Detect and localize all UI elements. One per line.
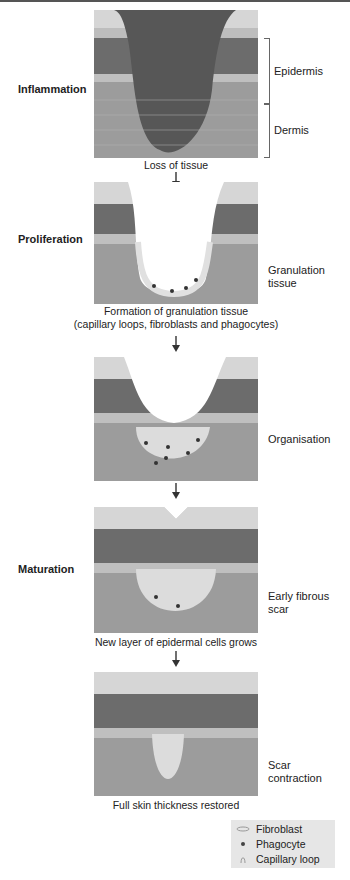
caption-loss-of-tissue: Loss of tissue (94, 159, 258, 172)
panel-inflammation (94, 10, 258, 158)
legend: Fibroblast Phagocyte Capillary loop (231, 820, 335, 868)
side-label-organisation: Organisation (268, 433, 330, 446)
stage-label-proliferation: Proliferation (18, 233, 83, 245)
legend-item-phagocyte: Phagocyte (236, 837, 306, 851)
epidermis-bracket (264, 38, 270, 104)
side-label-early-fibrous-1: Early fibrous (268, 590, 329, 603)
legend-label: Phagocyte (256, 838, 306, 850)
side-label-early-fibrous-2: scar (268, 603, 289, 616)
panel-scar-contraction (94, 672, 258, 796)
dermis-label: Dermis (274, 124, 309, 137)
legend-item-fibroblast: Fibroblast (236, 822, 302, 836)
caption-new-layer: New layer of epidermal cells grows (80, 636, 272, 649)
side-label-scar-1: Scar (268, 759, 291, 772)
legend-label: Capillary loop (256, 853, 320, 865)
caption-granulation-detail: (capillary loops, fibroblasts and phagoc… (60, 318, 292, 331)
caption-granulation: Formation of granulation tissue (60, 305, 292, 318)
panel-maturation (94, 507, 258, 633)
side-label-scar-2: contraction (268, 772, 322, 785)
fibroblast-icon (236, 825, 250, 833)
stage-label-maturation: Maturation (18, 563, 74, 575)
phagocyte-icon (236, 840, 250, 848)
stage-label-inflammation: Inflammation (18, 83, 86, 95)
caption-full-thickness: Full skin thickness restored (94, 799, 258, 812)
panel-proliferation (94, 182, 258, 304)
legend-label: Fibroblast (256, 823, 302, 835)
capillary-loop-icon (236, 855, 250, 863)
legend-item-capillary-loop: Capillary loop (236, 852, 320, 866)
arrow-down-icon (172, 651, 180, 667)
dermis-bracket (264, 104, 270, 158)
top-rule (0, 0, 350, 2)
arrow-down-icon (172, 336, 180, 352)
arrow-down-icon (172, 483, 180, 499)
side-label-granulation-2: tissue (268, 277, 297, 290)
side-label-granulation-1: Granulation (268, 264, 325, 277)
epidermis-label: Epidermis (274, 65, 323, 78)
panel-organisation (94, 357, 258, 481)
